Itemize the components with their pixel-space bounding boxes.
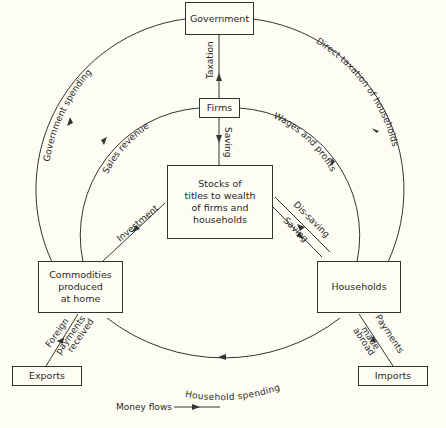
government-node: Government	[185, 2, 254, 35]
stocks-line-4: households	[193, 214, 247, 226]
commodities-node: Commodities produced at home	[38, 261, 123, 313]
wages-profits-label: Wages and profits	[272, 111, 338, 174]
commodities-line-3: at home	[61, 293, 101, 305]
government-spending-label: Government spending	[42, 67, 94, 162]
legend-label: Money flows	[116, 402, 172, 412]
sales-revenue-label: Sales revenue	[100, 120, 151, 175]
direct-taxation-label: Direct taxation of households	[315, 36, 401, 148]
payments-abroad-label: Payments made abroad	[351, 313, 406, 358]
direct-tax-arrowhead	[372, 126, 380, 134]
household-spending-label: Household spending	[184, 382, 281, 402]
government-spending-arc	[36, 19, 185, 262]
household-spending-arrowhead	[218, 354, 226, 360]
investment-label: Investment	[115, 203, 161, 244]
households-node: Households	[317, 261, 401, 313]
stocks-line-2: titles to wealth	[185, 190, 256, 202]
sales-arrowhead	[101, 137, 107, 145]
svg-text:Payments: Payments	[373, 313, 406, 356]
money-flow-arrow-icon	[174, 402, 220, 412]
household-spending-arc	[107, 318, 340, 358]
foreign-payments-label: Foreign payments received	[43, 313, 95, 356]
direct-taxation-arc	[253, 19, 404, 262]
commodities-line-1: Commodities	[49, 269, 112, 281]
imports-node: Imports	[358, 366, 428, 386]
stocks-line-1: Stocks of	[198, 178, 241, 190]
gov-spending-arrowhead	[67, 117, 73, 126]
stocks-node: Stocks of titles to wealth of firms and …	[167, 165, 273, 239]
stocks-line-3: of firms and	[192, 202, 249, 214]
firms-saving-label: Saving	[223, 127, 233, 157]
exports-node: Exports	[12, 366, 82, 386]
legend: Money flows	[116, 402, 220, 412]
firms-node: Firms	[199, 98, 240, 118]
commodities-line-2: produced	[58, 281, 103, 293]
taxation-label: Taxation	[205, 41, 215, 80]
